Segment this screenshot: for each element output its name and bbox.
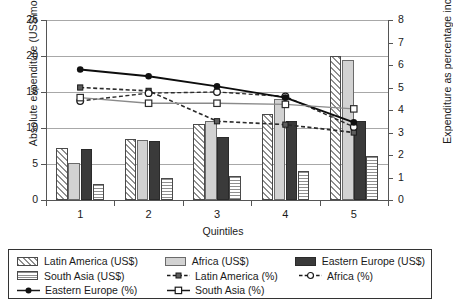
y-tick-label-left: 20 (8, 49, 38, 61)
legend-patch-swatch (17, 271, 38, 280)
legend-line-swatch (167, 286, 190, 295)
x-tick-label: 5 (324, 208, 384, 220)
data-point-marker (214, 119, 219, 124)
data-point-marker (282, 94, 289, 101)
data-point-marker (214, 83, 221, 90)
data-point-marker (145, 90, 152, 97)
x-tick-label: 1 (50, 208, 110, 220)
y-axis-right-title: Expenditure as percentage income (441, 0, 453, 156)
legend-patch-swatch (295, 257, 316, 266)
legend-patch-swatch (165, 257, 186, 266)
legend-item[interactable]: Latin America (US$) (17, 255, 165, 267)
legend-line-swatch (17, 286, 40, 295)
y-tick-label-right: 5 (398, 81, 428, 93)
data-point-marker (214, 89, 221, 96)
y-tick-label-right: 0 (398, 193, 428, 205)
y-axis-left-line (46, 20, 47, 200)
y-tick-label-right: 1 (398, 171, 428, 183)
x-tick-label: 2 (119, 208, 179, 220)
x-tick-label: 4 (255, 208, 315, 220)
plot-area: 0510152025 012345678 12345 (46, 20, 388, 200)
y-tick-label-left: 10 (8, 121, 38, 133)
data-point-marker (145, 100, 151, 106)
legend-marker (26, 287, 32, 293)
legend-item-label: Eastern Europe (US$) (322, 255, 425, 267)
data-point-marker (351, 106, 357, 112)
data-point-marker (77, 66, 84, 73)
data-point-marker (78, 85, 83, 90)
legend-item-label: Africa (%) (327, 270, 373, 282)
y-tick-label-right: 7 (398, 36, 428, 48)
y-tick-label-left: 15 (8, 85, 38, 97)
data-point-marker (77, 94, 83, 100)
y-tick-label-left: 0 (8, 193, 38, 205)
data-point-marker (214, 100, 220, 106)
legend-item[interactable]: Latin America (%) (167, 270, 299, 282)
x-axis-line (46, 200, 388, 201)
legend-item[interactable]: Eastern Europe (US$) (295, 255, 425, 267)
legend-line-swatch (299, 271, 322, 280)
legend-item[interactable]: Africa (US$) (165, 255, 295, 267)
legend-marker (175, 287, 181, 293)
legend-marker (308, 273, 314, 279)
x-tick-mark (388, 200, 389, 206)
y-axis-right-line (388, 20, 389, 200)
y-tick-label-right: 2 (398, 148, 428, 160)
legend-item[interactable]: Africa (%) (299, 270, 373, 282)
data-point-marker (283, 122, 288, 127)
y-tick-label-right: 8 (398, 13, 428, 25)
y-tick-label-right: 3 (398, 126, 428, 138)
legend-row: South Asia (US$)Latin America (%)Africa … (17, 269, 425, 284)
legend-item-label: South Asia (%) (195, 284, 264, 296)
legend-row: Latin America (US$)Africa (US$)Eastern E… (17, 254, 425, 269)
legend-item-label: Africa (US$) (192, 255, 249, 267)
data-point-marker (282, 101, 288, 107)
data-point-marker (351, 119, 358, 126)
legend-line-swatch (167, 271, 190, 280)
lines-layer (46, 20, 388, 200)
legend-item[interactable]: South Asia (%) (167, 284, 299, 296)
legend-item[interactable]: South Asia (US$) (17, 270, 167, 282)
legend-item-label: Eastern Europe (%) (45, 284, 137, 296)
legend-item[interactable]: Eastern Europe (%) (17, 284, 167, 296)
legend-item-label: Latin America (US$) (44, 255, 138, 267)
legend-row: Eastern Europe (%)South Asia (%) (17, 283, 425, 298)
x-axis-title: Quintiles (0, 225, 446, 237)
y-tick-label-right: 4 (398, 103, 428, 115)
legend-item-label: South Asia (US$) (44, 270, 125, 282)
legend-item-label: Latin America (%) (195, 270, 278, 282)
legend-patch-swatch (17, 257, 38, 266)
x-tick-label: 3 (187, 208, 247, 220)
y-tick-label-left: 5 (8, 157, 38, 169)
y-tick-label-left: 25 (8, 13, 38, 25)
data-point-marker (145, 73, 152, 80)
legend-marker (176, 273, 181, 278)
chart-legend: Latin America (US$)Africa (US$)Eastern E… (8, 249, 432, 299)
y-tick-label-right: 6 (398, 58, 428, 70)
